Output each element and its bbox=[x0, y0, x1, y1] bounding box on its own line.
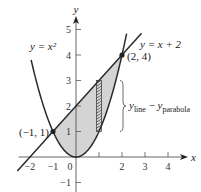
x-tick-label: −2 bbox=[25, 161, 36, 172]
x-tick-label: 0 bbox=[68, 161, 73, 172]
y-axis-label: y bbox=[73, 3, 79, 15]
y-tick-label: 3 bbox=[66, 75, 71, 86]
y-tick-label: 5 bbox=[66, 24, 71, 35]
x-tick-label: 4 bbox=[166, 161, 171, 172]
point-label-2-4: (2, 4) bbox=[127, 50, 151, 63]
parabola-label: y = x² bbox=[29, 40, 57, 52]
y-tick-label: −1 bbox=[60, 177, 71, 188]
point-label-neg1-1: (−1, 1) bbox=[19, 126, 49, 139]
x-tick-label: 2 bbox=[120, 161, 125, 172]
intersection-point bbox=[119, 52, 124, 57]
x-tick-label: 3 bbox=[143, 161, 148, 172]
brace-label: yline − yparabola bbox=[128, 99, 190, 114]
strip-rectangle bbox=[96, 81, 101, 132]
x-tick-label: −1 bbox=[48, 161, 59, 172]
y-tick-label: 4 bbox=[66, 50, 71, 61]
intersection-point bbox=[50, 129, 55, 134]
shaded-region bbox=[53, 55, 122, 157]
region-fill bbox=[53, 55, 122, 157]
brace-icon bbox=[120, 81, 126, 132]
line-label: y = x + 2 bbox=[139, 38, 182, 50]
x-axis-label: x bbox=[190, 151, 196, 163]
y-tick-label: 2 bbox=[66, 101, 71, 112]
y-tick-label: 1 bbox=[66, 126, 71, 137]
hatched-strip bbox=[96, 81, 101, 132]
area-between-curves-diagram: −2−10234−112345xy (−1, 1)(2, 4)y = x²y =… bbox=[0, 0, 201, 192]
